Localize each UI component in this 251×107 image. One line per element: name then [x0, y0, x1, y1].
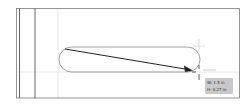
arrow-line[interactable] — [65, 49, 188, 70]
crosshair-icon — [192, 65, 199, 80]
dimension-tooltip: W: 1.5 in H: 0.27 in — [205, 78, 233, 94]
height-readout: H: 0.27 in — [207, 86, 231, 93]
width-readout: W: 1.5 in — [207, 79, 231, 86]
snap-point-icon — [193, 39, 205, 52]
